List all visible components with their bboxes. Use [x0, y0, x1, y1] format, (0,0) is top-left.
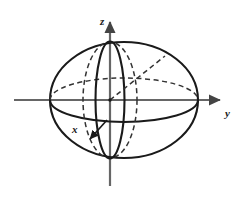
sphere-axes-figure: z y x: [0, 0, 246, 199]
x-axis-label: x: [71, 123, 78, 135]
y-axis-label: y: [223, 107, 230, 119]
x-axis: x: [71, 120, 107, 139]
figure-canvas: z y x: [0, 0, 246, 199]
origin-dot: [108, 98, 111, 101]
radius-dashed-line: [110, 56, 165, 100]
z-axis-label: z: [99, 15, 105, 27]
